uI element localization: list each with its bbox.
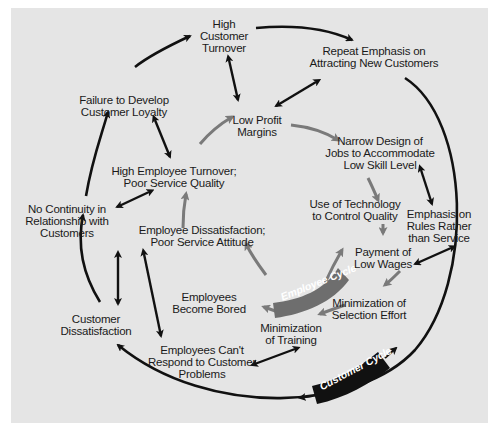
- node-minimization-training: Minimization of Training: [260, 322, 322, 346]
- node-high-customer-turnover: High Customer Turnover: [200, 18, 248, 54]
- node-failure-loyalty: Failure to Develop Customer Loyalty: [79, 94, 169, 118]
- node-emphasis-rules: Emphasis on Rules Rather than Service: [407, 208, 472, 244]
- node-no-continuity: No Continuity in Relationship with Custo…: [25, 203, 109, 239]
- node-high-employee-turnover: High Employee Turnover; Poor Service Qua…: [111, 165, 236, 189]
- node-low-profit-margins: Low Profit Margins: [232, 114, 281, 138]
- node-employees-cant-respond: Employees Can't Respond to Customer Prob…: [148, 344, 256, 380]
- node-use-of-technology: Use of Technology to Control Quality: [309, 198, 400, 222]
- node-narrow-design: Narrow Design of Jobs to Accommodate Low…: [325, 135, 434, 171]
- node-customer-dissatisfaction: Customer Dissatisfaction: [60, 313, 131, 337]
- node-repeat-emphasis: Repeat Emphasis on Attracting New Custom…: [310, 45, 439, 69]
- node-payment-low-wages: Payment of Low Wages: [354, 246, 412, 270]
- node-employee-dissatisfaction: Employee Dissatisfaction; Poor Service A…: [139, 224, 266, 248]
- node-minimization-selection: Minimization of Selection Effort: [332, 297, 407, 321]
- node-employees-become-bored: Employees Become Bored: [172, 291, 246, 315]
